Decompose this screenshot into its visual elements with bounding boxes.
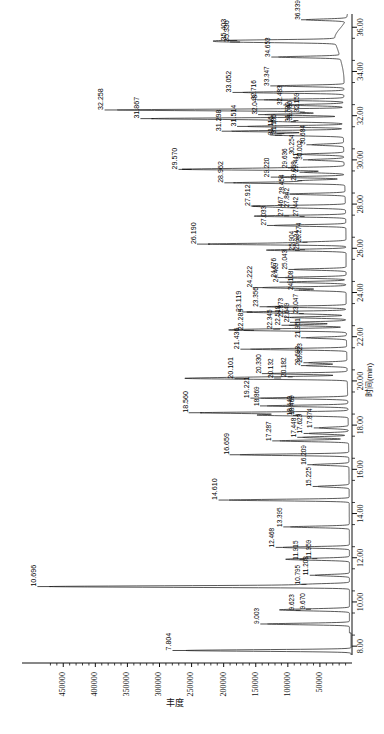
- peak-label: 26.190: [190, 222, 198, 244]
- peak-label: 31.867: [133, 97, 141, 119]
- abundance-tick-label: 150000: [251, 672, 260, 697]
- abundance-tick-label: 250000: [186, 672, 195, 697]
- time-tick-label: 20.00: [356, 372, 365, 390]
- abundance-tick-label: 350000: [122, 672, 131, 697]
- peak-label: 21.951: [294, 318, 301, 338]
- peak-label: 12.468: [268, 527, 275, 547]
- peak-label: 20.182: [280, 357, 287, 377]
- peak-label: 23.047: [292, 294, 299, 314]
- chromatogram-plot: 8.0010.0012.0014.0016.0018.0020.0022.002…: [0, 0, 384, 734]
- peak-label: 29.570: [171, 148, 179, 170]
- time-tick-label: 18.00: [356, 416, 365, 434]
- peak-label: 25.043: [281, 249, 288, 269]
- peak-label: 32.716: [250, 80, 257, 100]
- peak-label: 14.610: [211, 478, 219, 500]
- peak-label: 22.345: [266, 309, 273, 329]
- peak-label: 32.159: [293, 92, 300, 112]
- peak-label: 9.623: [288, 594, 295, 610]
- peak-label: 26.274: [295, 222, 302, 242]
- abundance-axis-ticks: 5000010000015000020000025000030000035000…: [50, 663, 345, 697]
- time-tick-label: 14.00: [356, 504, 365, 522]
- peak-label: 30.684: [299, 125, 306, 145]
- abundance-tick-label: 100000: [283, 672, 292, 697]
- peak-label-group: 7.8049.0039.6239.67010.69610.79511.20811…: [30, 0, 319, 650]
- time-axis-title: 时间(min): [364, 363, 374, 398]
- peak-label: 20.101: [227, 357, 235, 379]
- time-tick-label: 34.00: [356, 62, 365, 80]
- plot-group: 8.0010.0012.0014.0016.0018.0020.0022.002…: [22, 0, 374, 708]
- peak-label: 11.959: [305, 539, 312, 559]
- peak-label: 35.403: [220, 19, 228, 41]
- peak-label: 10.696: [30, 565, 38, 587]
- peak-label: 27.912: [244, 184, 252, 206]
- peak-label: 32.483: [276, 85, 283, 105]
- peak-label: 13.395: [276, 507, 283, 527]
- peak-label: 28.962: [217, 161, 225, 183]
- peak-label: 28.454: [278, 174, 285, 194]
- peak-label: 29.220: [263, 157, 270, 177]
- time-tick-label: 22.00: [356, 327, 365, 345]
- peak-label: 18.869: [253, 386, 260, 406]
- peak-label: 31.514: [230, 105, 238, 127]
- chromatogram-figure: 8.0010.0012.0014.0016.0018.0020.0022.002…: [0, 0, 384, 734]
- peak-label: 17.287: [265, 421, 272, 441]
- time-tick-label: 8.00: [356, 639, 365, 653]
- peak-label: 27.033: [260, 205, 267, 225]
- peak-label: 33.347: [263, 66, 270, 86]
- time-tick-label: 16.00: [356, 460, 365, 478]
- time-axis-ticks: 8.0010.0012.0014.0016.0018.0020.0022.002…: [352, 18, 365, 653]
- abundance-tick-label: 300000: [154, 672, 163, 697]
- peak-label: 23.356: [252, 287, 259, 307]
- peak-label: 32.258: [97, 88, 105, 110]
- peak-label: 33.052: [225, 71, 233, 93]
- peak-label: 24.108: [287, 270, 294, 290]
- time-tick-label: 24.00: [356, 283, 365, 301]
- time-tick-label: 28.00: [356, 195, 365, 213]
- peak-label: 20.132: [267, 358, 274, 378]
- peak-label: 17.623: [296, 413, 303, 433]
- peak-label: 9.670: [299, 593, 306, 609]
- peak-label: 7.804: [165, 633, 173, 651]
- peak-label: 15.225: [305, 466, 312, 486]
- abundance-tick-label: 450000: [58, 672, 67, 697]
- abundance-tick-label: 50000: [315, 672, 324, 692]
- abundance-tick-label: 400000: [90, 672, 99, 697]
- peak-label: 18.560: [182, 391, 190, 413]
- time-tick-label: 30.00: [356, 151, 365, 169]
- time-tick-label: 10.00: [356, 593, 365, 611]
- time-tick-label: 12.00: [356, 549, 365, 567]
- peak-label: 36.339: [294, 0, 301, 20]
- peak-label: 22.873: [277, 297, 284, 317]
- peak-label: 30.254: [288, 134, 295, 154]
- peak-label: 11.915: [292, 540, 299, 560]
- peak-label: 27.442: [292, 196, 299, 216]
- abundance-tick-label: 200000: [219, 672, 228, 697]
- peak-label: 17.874: [306, 408, 313, 428]
- peak-label: 9.003: [253, 608, 260, 624]
- peak-label: 10.795: [294, 564, 301, 584]
- time-tick-label: 32.00: [356, 106, 365, 124]
- peak-label: 24.676: [270, 258, 277, 278]
- peak-label: 18.469: [288, 395, 295, 415]
- time-tick-label: 26.00: [356, 239, 365, 257]
- peak-label: 23.119: [235, 291, 243, 312]
- peak-label: 20.330: [255, 354, 262, 374]
- peak-label: 16.209: [300, 445, 307, 465]
- peak-label: 16.659: [223, 433, 231, 455]
- peak-label: 29.636: [281, 148, 288, 168]
- peak-label: 31.186: [270, 114, 277, 134]
- peak-label: 24.222: [246, 266, 254, 288]
- peak-label: 34.653: [264, 37, 271, 57]
- abundance-axis-title: 丰度: [166, 697, 184, 708]
- peak-label: 19.221: [243, 376, 251, 398]
- peak-label: 20.823: [296, 343, 303, 363]
- peak-label: 31.298: [215, 109, 223, 131]
- time-tick-label: 36.00: [356, 18, 365, 36]
